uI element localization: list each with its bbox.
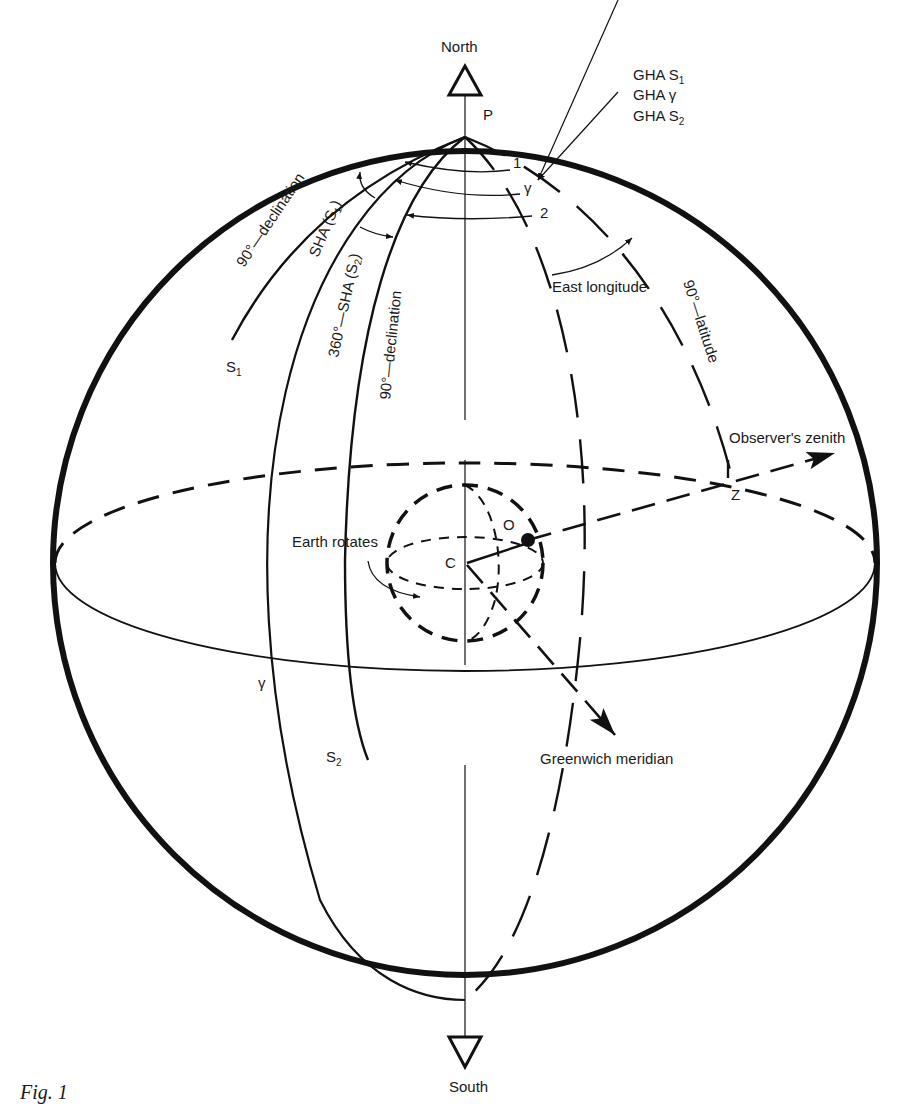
celestial-sphere-diagram: North South P GHA S1 GHA γ GHA S2 1 γ 2 …: [0, 0, 922, 1117]
marker-1: 1: [513, 154, 521, 171]
gha-s1-label: GHA S1: [633, 66, 685, 86]
greenwich-meridian-label: Greenwich meridian: [540, 750, 673, 767]
gha-s2-label: GHA S2: [633, 107, 685, 127]
north-arrow-icon: [449, 66, 481, 95]
sha-s2-arrow: [360, 227, 393, 237]
greenwich-direction-line: [467, 565, 615, 735]
east-longitude-arrow: [552, 238, 632, 275]
marker-aries-top: γ: [524, 179, 532, 196]
south-arrow-icon: [449, 1037, 481, 1067]
east-longitude-label: East longitude: [552, 278, 647, 295]
observers-zenith-label: Observer's zenith: [729, 429, 845, 446]
s1-label: S1: [226, 358, 242, 378]
aries-meridian: [267, 137, 465, 1000]
north-label: North: [441, 38, 478, 55]
gha-leader-arrow: [538, 0, 618, 180]
center-label: C: [445, 554, 456, 571]
s2-label: S2: [326, 748, 342, 768]
greenwich-meridian: [465, 137, 585, 1000]
figure-caption: Fig. 1: [19, 1081, 68, 1104]
observer-label: O: [503, 516, 515, 533]
gha-arcs: [395, 162, 532, 219]
declination-s2-label: 90°—declination: [376, 290, 404, 401]
south-label: South: [449, 1078, 488, 1095]
colatitude-label: 90°—latitude: [680, 278, 723, 365]
gha-aries-label: GHA γ: [633, 86, 677, 103]
marker-2: 2: [540, 204, 548, 221]
aries-equator-label: γ: [258, 674, 266, 691]
pole-label: P: [483, 106, 493, 123]
center-to-observer-line: [467, 543, 528, 563]
earth-rotates-label: Earth rotates: [292, 533, 378, 550]
zenith-point-label: Z: [731, 486, 740, 503]
s2-hour-circle: [345, 137, 465, 760]
declination-s1-label: 90°—declination: [232, 169, 307, 269]
